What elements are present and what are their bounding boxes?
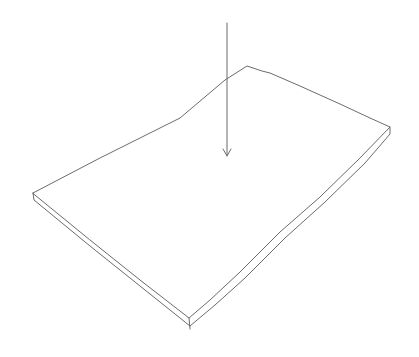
sketch-canvas bbox=[0, 0, 419, 357]
plate-top-face bbox=[33, 66, 390, 318]
plate-edge-right bbox=[190, 127, 390, 326]
arrow bbox=[223, 23, 231, 156]
plate bbox=[33, 66, 390, 329]
plate-corner bbox=[189, 318, 190, 329]
